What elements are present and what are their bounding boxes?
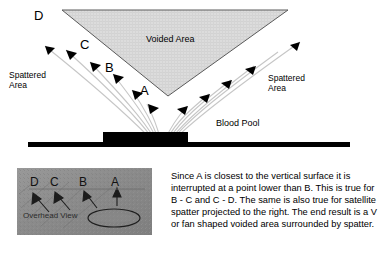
explanation-paragraph: Since A is closest to the vertical surfa…: [171, 170, 383, 230]
trajectory-label-b: B: [105, 61, 114, 74]
voided-area-shape: [62, 10, 288, 96]
trajectory-label-c: C: [80, 38, 89, 51]
main-diagram: Spattered Area Spattered Area Voided Are…: [0, 0, 386, 160]
label-blood-pool: Blood Pool: [216, 118, 260, 128]
label-voided-area: Voided Area: [146, 34, 195, 44]
overhead-view-panel: D C B A Overhead View: [17, 168, 152, 235]
overhead-label-a: A: [111, 176, 119, 188]
trajectory-label-a: A: [140, 84, 149, 97]
overhead-view-caption: Overhead View: [23, 211, 78, 220]
trajectory-label-d: D: [34, 9, 43, 22]
overhead-blood-pool-inner: [95, 213, 133, 223]
overhead-label-d: D: [30, 176, 39, 188]
label-spattered-area-left: Spattered Area: [9, 70, 46, 90]
explanation-text-block: Since A is closest to the vertical surfa…: [171, 170, 383, 230]
overhead-label-c: C: [50, 176, 59, 188]
baseline-surface: [28, 142, 350, 147]
overhead-label-b: B: [79, 176, 87, 188]
bloodstain-pattern-diagram: Spattered Area Spattered Area Voided Are…: [0, 0, 386, 264]
label-spattered-area-right: Spattered Area: [268, 73, 305, 93]
main-diagram-graphics: [0, 0, 386, 160]
blood-pool-shape: [103, 132, 188, 143]
